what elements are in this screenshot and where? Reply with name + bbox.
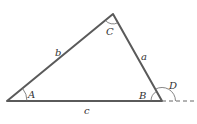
- side-label-c: c: [84, 105, 90, 116]
- exterior-angle-label-D: D: [168, 80, 177, 91]
- angle-arc-B: [151, 91, 157, 101]
- triangle: [7, 14, 162, 101]
- vertex-label-B: B: [138, 90, 146, 101]
- angle-arc-A: [23, 88, 28, 101]
- vertex-label-A: A: [27, 89, 35, 100]
- side-label-a: a: [141, 51, 147, 62]
- vertex-label-C: C: [106, 26, 114, 37]
- triangle-diagram: A B C a b c D: [0, 0, 197, 124]
- side-label-b: b: [55, 47, 61, 58]
